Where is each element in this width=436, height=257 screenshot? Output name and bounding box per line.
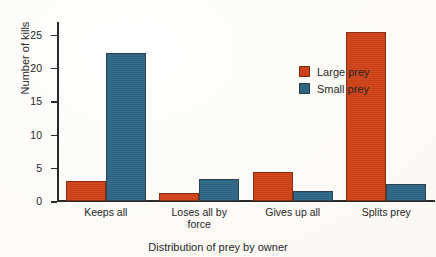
- x-category-label-line: force: [153, 218, 247, 230]
- y-tick-25: 25: [51, 35, 57, 36]
- x-category-label-splits-prey: Splits prey: [340, 206, 434, 218]
- legend-item-small-prey: Small prey: [299, 80, 370, 97]
- x-category-label-gives-up-all: Gives up all: [246, 206, 340, 218]
- y-tick-label-25: 25: [30, 29, 42, 41]
- x-category-label-loses-all-by-force: Loses all byforce: [153, 206, 247, 230]
- y-tick-label-15: 15: [30, 95, 42, 107]
- bar-keeps-all-large-prey: [66, 181, 106, 201]
- y-axis-line: [57, 22, 59, 202]
- bar-loses-all-by-force-large-prey: [159, 193, 199, 201]
- x-axis-title: Distribution of prey by owner: [0, 241, 436, 253]
- legend-label-large-prey: Large prey: [317, 66, 370, 78]
- bar-chart: Number of kills 0510152025 Large prey Sm…: [0, 0, 436, 257]
- y-tick-10: 10: [51, 135, 57, 136]
- bar-gives-up-all-small-prey: [293, 191, 333, 200]
- y-tick-label-5: 5: [36, 162, 42, 174]
- y-tick-label-0: 0: [36, 195, 42, 207]
- bar-splits-prey-small-prey: [386, 184, 426, 201]
- page-background: Number of kills 0510152025 Large prey Sm…: [0, 0, 436, 257]
- y-tick-20: 20: [51, 68, 57, 69]
- bar-splits-prey-large-prey: [346, 32, 386, 201]
- x-category-label-line: Splits prey: [340, 206, 434, 218]
- y-tick-0: 0: [51, 201, 57, 202]
- bar-loses-all-by-force-small-prey: [199, 179, 239, 200]
- y-tick-label-10: 10: [30, 129, 42, 141]
- plot-area: 0510152025 Large prey Small prey Keeps a…: [57, 22, 431, 202]
- y-axis-title: Number of kills: [19, 0, 31, 128]
- legend-swatch-small-prey: [299, 83, 310, 94]
- legend-swatch-large-prey: [299, 66, 310, 77]
- y-tick-label-20: 20: [30, 62, 42, 74]
- x-category-label-keeps-all: Keeps all: [59, 206, 153, 218]
- x-category-label-line: Loses all by: [153, 206, 247, 218]
- x-category-label-line: Keeps all: [59, 206, 153, 218]
- y-tick-5: 5: [51, 168, 57, 169]
- bar-gives-up-all-large-prey: [253, 172, 293, 201]
- x-axis-line: [57, 200, 435, 202]
- chart-legend: Large prey Small prey: [299, 63, 370, 97]
- legend-item-large-prey: Large prey: [299, 63, 370, 80]
- bar-keeps-all-small-prey: [106, 53, 146, 200]
- x-category-label-line: Gives up all: [246, 206, 340, 218]
- legend-label-small-prey: Small prey: [317, 83, 369, 95]
- y-tick-15: 15: [51, 101, 57, 102]
